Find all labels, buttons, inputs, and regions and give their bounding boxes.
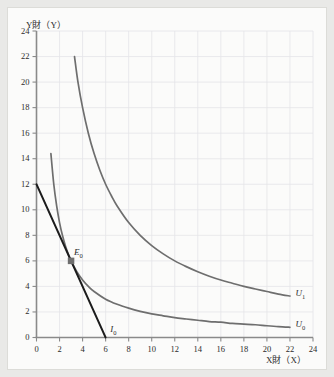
point-label-e0: E0 — [74, 247, 83, 259]
curve-u1 — [75, 57, 290, 296]
y-tick-label: 2 — [10, 306, 30, 316]
x-tick-label: 22 — [280, 344, 300, 354]
chart-figure: Y財（Y） X財（X） 024681012141618202224 024681… — [8, 8, 326, 369]
curve-u0 — [51, 154, 290, 328]
y-tick-label: 4 — [10, 281, 30, 291]
x-tick-label: 24 — [303, 344, 323, 354]
x-tick-label: 6 — [96, 344, 116, 354]
y-tick-label: 12 — [10, 179, 30, 189]
x-tick-label: 14 — [188, 344, 208, 354]
x-tick-label: 8 — [119, 344, 139, 354]
y-tick-label: 16 — [10, 128, 30, 138]
x-tick-label: 12 — [165, 344, 185, 354]
y-tick-label: 20 — [10, 77, 30, 87]
y-tick-label: 10 — [10, 204, 30, 214]
x-tick-label: 20 — [257, 344, 277, 354]
y-tick-label: 8 — [10, 230, 30, 240]
tick-marks — [33, 31, 314, 342]
y-tick-label: 14 — [10, 153, 30, 163]
indifference-curve-plot — [8, 8, 326, 369]
y-tick-label: 22 — [10, 51, 30, 61]
y-tick-label: 18 — [10, 102, 30, 112]
y-tick-label: 6 — [10, 255, 30, 265]
x-tick-label: 16 — [211, 344, 231, 354]
x-tick-label: 2 — [50, 344, 70, 354]
x-tick-label: 0 — [27, 344, 47, 354]
x-tick-label: 18 — [234, 344, 254, 354]
curve-label-u0: U0 — [296, 319, 306, 331]
y-tick-label: 0 — [10, 332, 30, 342]
x-tick-label: 4 — [73, 344, 93, 354]
y-tick-label: 24 — [10, 26, 30, 36]
x-tick-label: 10 — [142, 344, 162, 354]
curve-label-i0: I0 — [110, 324, 116, 336]
curve-label-u1: U1 — [296, 288, 306, 300]
